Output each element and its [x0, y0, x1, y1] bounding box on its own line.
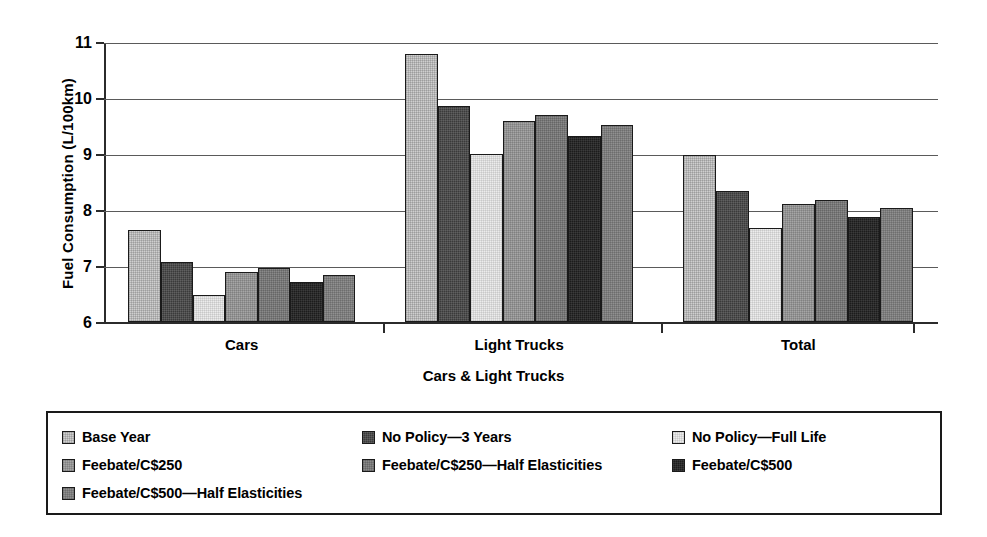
legend-row: Feebate/C$250Feebate/C$250—Half Elastici… — [62, 451, 940, 479]
x-axis-separator-tick — [913, 324, 915, 333]
legend-label: Feebate/C$250—Half Elasticities — [382, 457, 602, 473]
bar — [683, 155, 716, 322]
legend-item[interactable]: Feebate/C$250—Half Elasticities — [362, 457, 672, 473]
bar — [128, 230, 160, 322]
y-tick-label: 8 — [83, 202, 92, 220]
y-tick-mark — [96, 154, 104, 156]
legend-row: Base YearNo Policy—3 YearsNo Policy—Full… — [62, 423, 940, 451]
x-axis-line — [104, 322, 938, 324]
bar — [848, 217, 881, 322]
y-tick-label: 6 — [83, 314, 92, 332]
legend-swatch-icon — [62, 459, 75, 472]
legend-item[interactable]: No Policy—Full Life — [672, 429, 932, 445]
legend-label: No Policy—Full Life — [692, 429, 826, 445]
bar — [290, 282, 322, 322]
bar — [470, 154, 503, 322]
legend-swatch-icon — [672, 459, 685, 472]
y-tick-mark — [96, 266, 104, 268]
y-axis-line — [104, 43, 106, 323]
legend-box: Base YearNo Policy—3 YearsNo Policy—Full… — [46, 411, 942, 515]
y-tick-mark — [96, 42, 104, 44]
legend-swatch-icon — [62, 431, 75, 444]
bar — [405, 54, 438, 322]
bar — [568, 136, 601, 322]
x-axis-title: Cars & Light Trucks — [0, 367, 987, 384]
legend-swatch-icon — [62, 487, 75, 500]
bar — [323, 275, 355, 322]
bar — [503, 121, 536, 322]
y-tick-label: 10 — [74, 90, 92, 108]
bar-chart-figure: Fuel Consumption (L/100km) 67891011 Cars… — [0, 0, 987, 537]
bar — [880, 208, 913, 322]
y-tick-label: 7 — [83, 258, 92, 276]
legend-label: No Policy—3 Years — [382, 429, 511, 445]
legend-row: Feebate/C$500—Half Elasticities — [62, 479, 940, 507]
legend-item[interactable]: Base Year — [62, 429, 362, 445]
bar — [815, 200, 848, 322]
bar — [535, 115, 568, 322]
x-axis-separator-tick — [661, 324, 663, 333]
gridline — [104, 99, 938, 100]
legend-label: Feebate/C$500 — [692, 457, 792, 473]
bar — [438, 106, 471, 322]
x-category-label-cars: Cars — [225, 336, 258, 353]
bar — [225, 272, 257, 322]
y-tick-mark — [96, 98, 104, 100]
x-axis-separator-tick — [383, 324, 385, 333]
plot-area: 67891011 — [104, 43, 938, 323]
bar — [258, 268, 290, 322]
bar — [782, 204, 815, 322]
legend-item[interactable]: No Policy—3 Years — [362, 429, 672, 445]
legend-swatch-icon — [362, 431, 375, 444]
y-tick-mark — [96, 210, 104, 212]
legend-item[interactable]: Feebate/C$500 — [672, 457, 932, 473]
legend-item[interactable]: Feebate/C$500—Half Elasticities — [62, 485, 362, 501]
y-axis-title: Fuel Consumption (L/100km) — [59, 19, 76, 349]
bar — [601, 125, 634, 322]
y-tick-label: 9 — [83, 146, 92, 164]
x-category-label-total: Total — [781, 336, 816, 353]
legend-label: Feebate/C$250 — [82, 457, 182, 473]
legend-label: Base Year — [82, 429, 150, 445]
legend-label: Feebate/C$500—Half Elasticities — [82, 485, 302, 501]
bar — [716, 191, 749, 322]
legend-swatch-icon — [362, 459, 375, 472]
legend-item[interactable]: Feebate/C$250 — [62, 457, 362, 473]
y-tick-label: 11 — [75, 34, 92, 52]
bar — [749, 228, 782, 322]
bar — [161, 262, 193, 322]
gridline — [104, 43, 938, 44]
y-tick-mark — [96, 322, 104, 324]
bar — [193, 295, 225, 322]
legend-swatch-icon — [672, 431, 685, 444]
x-category-label-light-trucks: Light Trucks — [475, 336, 564, 353]
